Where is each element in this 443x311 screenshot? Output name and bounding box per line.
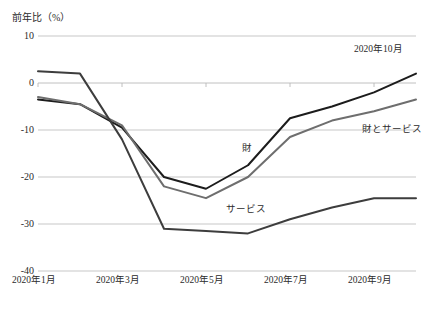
series-label-goods-and-services: 財とサービス	[362, 124, 422, 135]
chart-container: 前年比（%） 100-10-20-30-40 2020年1月2020年3月202…	[0, 0, 443, 311]
series-label-goods: 財	[242, 143, 252, 154]
x-axis-tick-labels: 2020年1月2020年3月2020年5月2020年7月2020年9月	[0, 275, 443, 295]
series-label-services: サービス	[226, 204, 266, 215]
x-axis-tick-label: 2020年1月	[12, 275, 56, 285]
annotation-last-month: 2020年10月	[354, 44, 403, 55]
x-axis-tick-label: 2020年9月	[348, 275, 392, 285]
x-axis-tick-label: 2020年5月	[180, 275, 224, 285]
series-line-財	[38, 74, 416, 189]
x-axis-tick-label: 2020年7月	[264, 275, 308, 285]
series-line-財とサービス	[38, 97, 416, 198]
x-axis-tick-label: 2020年3月	[96, 275, 140, 285]
